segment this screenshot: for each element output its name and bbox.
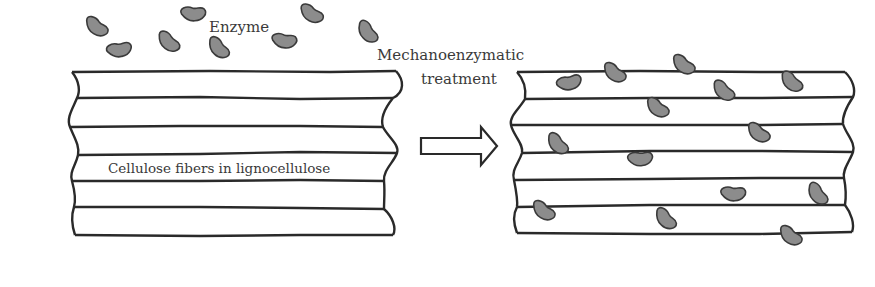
diagram-canvas: Enzyme Mechanoenzymatic treatment Cellul… [0, 0, 875, 287]
fiber-bundle-before [69, 71, 402, 236]
enzyme-label: Enzyme [209, 18, 269, 36]
fibers-label: Cellulose fibers in lignocellulose [108, 160, 330, 176]
process-label-line1: Mechanoenzymatic [377, 46, 524, 64]
process-arrow [421, 127, 497, 165]
process-label-line2: treatment [421, 70, 497, 88]
